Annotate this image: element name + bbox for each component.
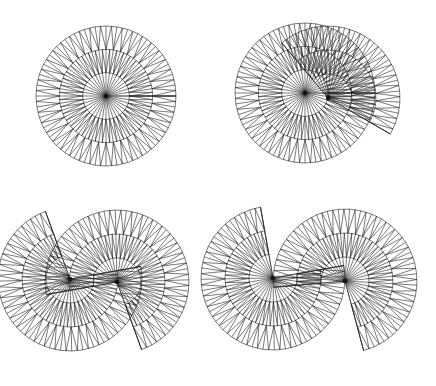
center-point bbox=[343, 279, 347, 283]
mesh-figure bbox=[0, 0, 436, 386]
panel-single-disk bbox=[36, 26, 176, 166]
panel-two-center bbox=[235, 23, 400, 163]
panel-two-center-extended bbox=[201, 207, 417, 350]
panel-two-center-wide bbox=[0, 210, 189, 351]
center-point bbox=[303, 91, 307, 95]
center-point bbox=[326, 96, 330, 100]
center-point bbox=[115, 280, 119, 284]
center-point bbox=[104, 94, 108, 98]
